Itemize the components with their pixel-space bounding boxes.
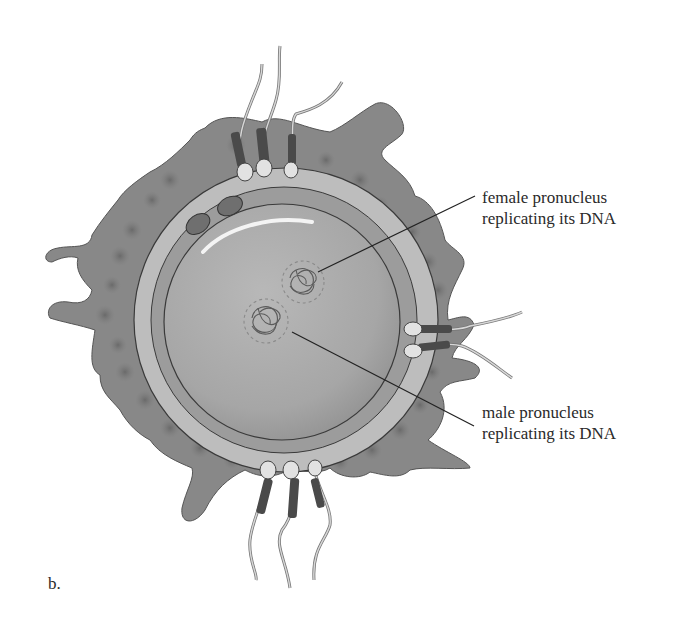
egg-cytoplasm	[164, 204, 400, 440]
female-label-line1: female pronucleus	[482, 187, 616, 208]
sperm-bottom-2	[279, 461, 299, 588]
sperm-bottom-3	[308, 460, 330, 580]
panel-letter: b.	[48, 573, 61, 594]
female-label-line2: replicating its DNA	[482, 208, 616, 229]
sperm-bottom-1	[250, 461, 276, 580]
fertilized-egg-diagram	[0, 0, 686, 618]
male-label-line1: male pronucleus	[482, 402, 616, 423]
male-label-line2: replicating its DNA	[482, 423, 616, 444]
male-pronucleus-label: male pronucleus replicating its DNA	[482, 402, 616, 444]
female-pronucleus-label: female pronucleus replicating its DNA	[482, 187, 616, 229]
